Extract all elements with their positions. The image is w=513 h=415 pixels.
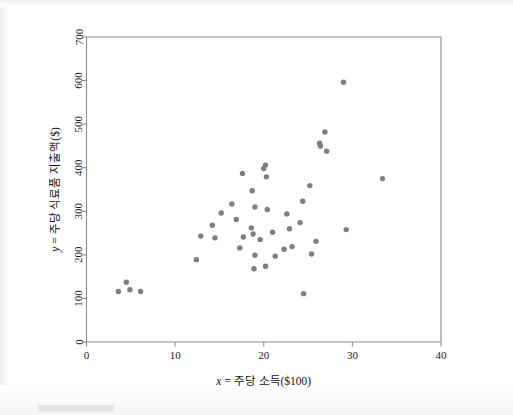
data-point <box>273 253 278 258</box>
data-point <box>309 251 314 256</box>
data-point <box>284 211 289 216</box>
data-point <box>240 171 245 176</box>
data-point <box>241 234 246 239</box>
data-point <box>322 129 327 134</box>
data-point <box>265 207 270 212</box>
data-point <box>264 174 269 179</box>
data-point <box>301 291 306 296</box>
data-points <box>116 80 386 297</box>
data-point <box>307 183 312 188</box>
data-point <box>250 188 255 193</box>
data-point <box>263 162 268 167</box>
data-point <box>229 201 234 206</box>
data-point <box>212 235 217 240</box>
x-tick-label: 0 <box>84 349 90 361</box>
x-tick-label: 20 <box>258 349 270 361</box>
data-point <box>300 199 305 204</box>
y-tick-label: 700 <box>73 28 85 45</box>
x-tick-label: 10 <box>170 349 182 361</box>
data-point <box>270 230 275 235</box>
data-point <box>297 220 302 225</box>
y-tick-label: 100 <box>73 290 85 307</box>
data-point <box>116 289 121 294</box>
data-point <box>289 244 294 249</box>
data-point <box>252 204 257 209</box>
data-point <box>263 263 268 268</box>
x-tick-label: 40 <box>436 349 448 361</box>
y-tick-label: 600 <box>73 72 85 89</box>
data-point <box>219 210 224 215</box>
data-point <box>127 287 132 292</box>
x-axis-title: x = 주당 소득($100) <box>215 375 311 388</box>
y-axis-title: y = 주당 식료품 지출액($) <box>49 127 62 253</box>
data-point <box>287 226 292 231</box>
data-point <box>234 217 239 222</box>
data-point <box>249 225 254 230</box>
data-point <box>281 246 286 251</box>
data-point <box>237 245 242 250</box>
x-tick-label: 30 <box>347 349 359 361</box>
scatter-plot-figure: 0100200300400500600700 010203040 x = 주당 … <box>0 0 513 415</box>
y-axis-ticks: 0100200300400500600700 <box>73 28 87 345</box>
y-tick-label: 500 <box>73 115 85 132</box>
data-point <box>124 280 129 285</box>
data-point <box>380 176 385 181</box>
scatter-plot-svg: 0100200300400500600700 010203040 x = 주당 … <box>0 0 513 415</box>
x-axis-ticks: 010203040 <box>84 342 447 361</box>
data-point <box>250 231 255 236</box>
data-point <box>318 143 323 148</box>
page-background: 0100200300400500600700 010203040 x = 주당 … <box>0 0 513 415</box>
y-tick-label: 200 <box>73 246 85 263</box>
data-point <box>324 148 329 153</box>
data-point <box>251 266 256 271</box>
data-point <box>198 233 203 238</box>
data-point <box>343 227 348 232</box>
data-point <box>210 223 215 228</box>
data-point <box>341 80 346 85</box>
data-point <box>313 239 318 244</box>
y-tick-label: 400 <box>73 159 85 176</box>
data-point <box>252 253 257 258</box>
plot-frame <box>87 37 442 342</box>
data-point <box>258 237 263 242</box>
data-point <box>194 257 199 262</box>
data-point <box>138 289 143 294</box>
y-tick-label: 300 <box>73 203 85 220</box>
y-tick-label: 0 <box>73 339 85 345</box>
